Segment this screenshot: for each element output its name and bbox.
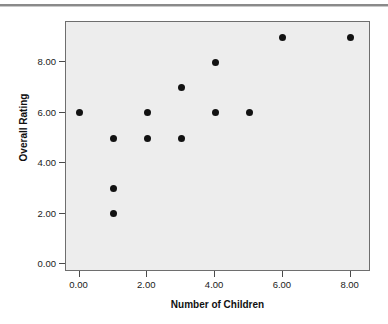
- data-point: [178, 84, 185, 91]
- data-point: [178, 135, 185, 142]
- data-point: [110, 210, 117, 217]
- data-point: [246, 109, 253, 116]
- header-divider-line-shadow: [0, 6, 388, 7]
- data-point: [212, 109, 219, 116]
- y-axis-tick-mark: [59, 61, 65, 62]
- y-axis-tick-mark: [59, 112, 65, 113]
- y-axis-tick-mark: [59, 263, 65, 264]
- data-point: [144, 109, 151, 116]
- y-axis-tick-mark: [59, 213, 65, 214]
- plot-panel: [65, 21, 370, 271]
- y-axis-tick-mark: [59, 162, 65, 163]
- y-axis-tick-label: 2.00: [16, 207, 56, 218]
- x-axis-tick-label: 8.00: [328, 279, 372, 290]
- x-axis-title: Number of Children: [65, 299, 370, 310]
- data-point: [110, 185, 117, 192]
- scatter-plot-figure: 0.002.004.006.008.00 0.002.004.006.008.0…: [0, 0, 388, 324]
- x-axis-tick-mark: [79, 271, 80, 277]
- y-axis-title: Overall Rating: [18, 58, 29, 198]
- data-point: [76, 109, 83, 116]
- data-point: [144, 135, 151, 142]
- data-points-layer: [66, 22, 369, 270]
- x-axis-tick-label: 4.00: [192, 279, 236, 290]
- x-axis-tick-mark: [146, 271, 147, 277]
- data-point: [110, 135, 117, 142]
- x-axis-tick-mark: [282, 271, 283, 277]
- x-axis-tick-label: 0.00: [57, 279, 101, 290]
- data-point: [279, 34, 286, 41]
- x-axis-tick-mark: [214, 271, 215, 277]
- x-axis-tick-label: 6.00: [260, 279, 304, 290]
- x-axis-tick-mark: [350, 271, 351, 277]
- data-point: [347, 34, 354, 41]
- data-point: [212, 59, 219, 66]
- y-axis-tick-label: 0.00: [16, 258, 56, 269]
- x-axis-tick-label: 2.00: [124, 279, 168, 290]
